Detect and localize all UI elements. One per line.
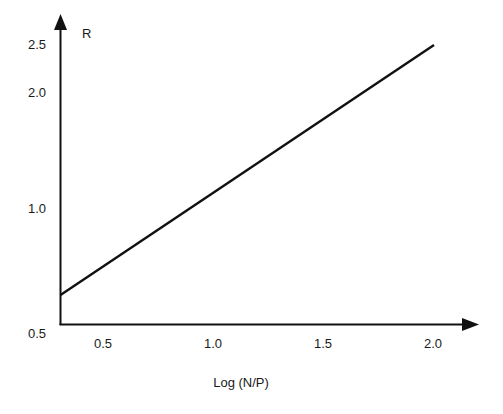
x-tick-label: 1.0 — [204, 337, 222, 350]
x-axis-label: Log (N/P) — [213, 376, 269, 389]
data-line — [61, 45, 435, 295]
y-axis-arrow-icon — [54, 14, 67, 30]
y-axis-label: R — [82, 27, 91, 40]
y-tick-label: 2.5 — [28, 38, 46, 51]
x-tick-label: 2.0 — [424, 337, 442, 350]
y-tick-label: 0.5 — [28, 327, 46, 340]
x-axis-arrow-icon — [462, 318, 479, 331]
y-tick-label: 1.0 — [28, 202, 46, 215]
y-tick-label: 2.0 — [28, 86, 46, 99]
chart-canvas — [0, 0, 503, 414]
x-tick-label: 0.5 — [94, 337, 112, 350]
x-tick-label: 1.5 — [314, 337, 332, 350]
